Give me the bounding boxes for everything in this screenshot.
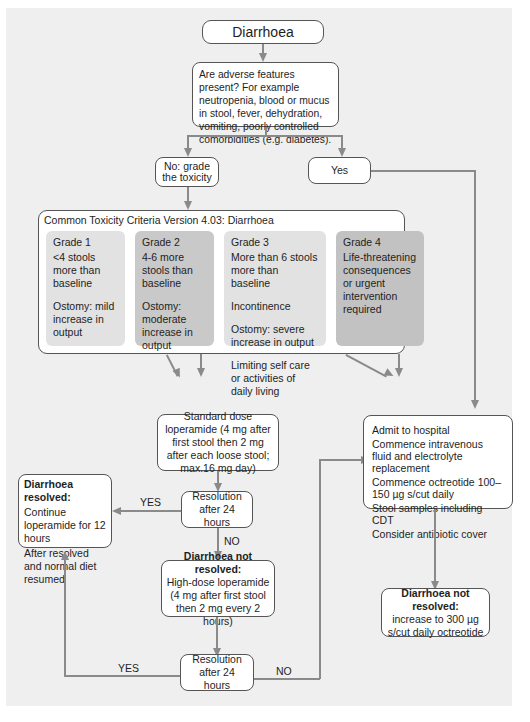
connector	[64, 557, 66, 676]
standard-dose-node: Standard dose loperamide (4 mg after fir…	[157, 414, 279, 471]
yes-branch-label: Yes	[331, 164, 348, 177]
connector	[64, 675, 180, 677]
hospital-line: Stool samples including CDT	[372, 502, 504, 526]
grade-3-item: Limiting self care or activities of dail…	[231, 359, 319, 398]
hospital-line: Commence intravenous fluid and electroly…	[372, 438, 504, 474]
yes-label: YES	[118, 662, 139, 674]
resolution-check-1: Resolution after 24 hours	[181, 491, 253, 528]
grade-toxicity-node: No: grade the toxicity	[155, 157, 219, 187]
arrow-icon	[184, 148, 192, 157]
grade-1-item: Ostomy: mild increase in output	[53, 300, 118, 339]
resolved-line: Continue loperamide for 12 hours	[24, 506, 106, 545]
arrow-icon	[395, 368, 403, 377]
connector	[371, 170, 475, 172]
grade-3-item: More than 6 stools more than baseline	[231, 251, 319, 290]
connector	[187, 135, 342, 137]
arrow-icon	[197, 368, 205, 377]
resolved-node: Diarrhoea resolved: Continue loperamide …	[18, 474, 112, 548]
start-label: Diarrhoea	[232, 26, 293, 39]
start-node: Diarrhoea	[202, 20, 324, 44]
caption-strip	[0, 0, 530, 6]
yes-label: YES	[140, 496, 161, 508]
grade-4-card: Grade 4 Life-threatening consequences or…	[336, 231, 424, 346]
connector	[254, 678, 320, 680]
hospital-line: Commence octreotide 100–150 µg s/cut dai…	[372, 476, 504, 500]
high-dose-node: Diarrhoea not resolved: High-dose lopera…	[161, 560, 275, 617]
grade-2-title: Grade 2	[142, 236, 207, 249]
grade-1-card: Grade 1 <4 stools more than baseline Ost…	[46, 231, 125, 346]
grade-2-item: 4-6 more stools than baseline	[142, 251, 207, 290]
no-label: NO	[276, 665, 292, 677]
standard-dose-text: Standard dose loperamide (4 mg after fir…	[162, 410, 274, 475]
high-dose-title: Diarrhoea not resolved:	[165, 550, 271, 576]
no-branch-label: No: grade the toxicity	[162, 161, 212, 184]
arrow-icon	[338, 148, 346, 157]
arrow-icon	[259, 53, 267, 62]
octreotide-title: Diarrhoea not resolved:	[386, 587, 485, 613]
high-dose-text: High-dose loperamide (4 mg after first s…	[165, 576, 271, 628]
octreotide-node: Diarrhoea not resolved: increase to 300 …	[381, 588, 490, 637]
question-node: Are adverse features present? For exampl…	[192, 62, 339, 127]
grade-1-title: Grade 1	[53, 236, 118, 249]
arrow-icon	[112, 507, 121, 515]
resolution-check-2: Resolution after 24 hours	[180, 654, 254, 691]
grade-4-item: Life-threatening consequences or urgent …	[343, 251, 417, 316]
grade-4-title: Grade 4	[343, 236, 417, 249]
grade-2-item: Ostomy: moderate increase in output	[142, 300, 207, 352]
ctc-title: Common Toxicity Criteria Version 4.03: D…	[44, 214, 274, 227]
arrow-icon	[61, 551, 69, 560]
arrow-icon	[471, 400, 479, 409]
arrow-icon	[184, 201, 192, 210]
connector	[120, 510, 181, 512]
no-label: NO	[224, 535, 240, 547]
grade-3-card: Grade 3 More than 6 stools more than bas…	[224, 231, 326, 346]
connector	[474, 170, 476, 405]
hospital-line: Admit to hospital	[372, 424, 504, 436]
yes-node: Yes	[308, 157, 371, 184]
ctc-container: Common Toxicity Criteria Version 4.03: D…	[38, 210, 405, 354]
hospital-line: Consider antibiotic cover	[372, 528, 504, 540]
resolution-1-text: Resolution after 24 hours	[188, 490, 246, 529]
resolution-2-text: Resolution after 24 hours	[187, 653, 247, 692]
grade-2-card: Grade 2 4-6 more stools than baseline Os…	[135, 231, 214, 346]
grade-1-item: <4 stools more than baseline	[53, 251, 118, 290]
connector	[216, 617, 218, 651]
grade-3-item: Ostomy: severe increase in output	[231, 323, 319, 349]
grade-3-title: Grade 3	[231, 236, 319, 249]
octreotide-text: increase to 300 µg s/cut daily octreotid…	[386, 613, 485, 639]
resolved-title: Diarrhoea resolved:	[24, 478, 106, 504]
hospital-node: Admit to hospital Commence intravenous f…	[363, 415, 513, 509]
connector	[319, 459, 365, 461]
connector	[434, 509, 436, 584]
connector	[319, 459, 321, 679]
grade-3-item: Incontinence	[231, 300, 319, 313]
